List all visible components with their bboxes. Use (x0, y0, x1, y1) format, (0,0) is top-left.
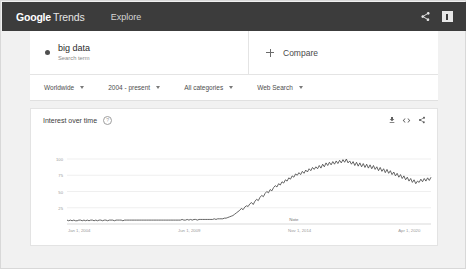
category-filter[interactable]: All categories (184, 84, 233, 91)
google-trends-page: Google Trends Explore big data Search te… (0, 0, 466, 269)
interest-over-time-plot: 255075100NoteJan 1, 2004Jun 1, 2009Nov 1… (31, 131, 439, 247)
location-filter[interactable]: Worldwide (44, 84, 84, 91)
embed-code-icon[interactable] (400, 114, 413, 127)
compare-label: Compare (283, 48, 318, 58)
trends-wordmark: Trends (53, 11, 85, 23)
search-type-filter[interactable]: Web Search (257, 84, 303, 91)
y-axis-tick-label: 100 (56, 157, 64, 162)
x-axis-tick-label: Jan 1, 2004 (68, 228, 91, 233)
chevron-down-icon (299, 86, 303, 89)
google-wordmark: Google (16, 11, 51, 23)
search-term-label: big data (58, 43, 90, 54)
nav-item-explore[interactable]: Explore (111, 12, 142, 22)
time-range-filter[interactable]: 2004 - present (108, 84, 160, 91)
plus-icon (266, 49, 274, 57)
interest-over-time-card: Interest over time ? 255075100NoteJan 1, (30, 108, 438, 246)
chart-title: Interest over time (43, 117, 97, 124)
x-axis-tick-label: Jun 1, 2009 (178, 228, 201, 233)
x-axis-tick-label: Nov 1, 2014 (288, 228, 312, 233)
search-term-text: big data Search term (58, 43, 90, 62)
location-filter-label: Worldwide (44, 84, 74, 91)
chevron-down-icon (156, 86, 160, 89)
feedback-flag-icon[interactable] (438, 8, 456, 26)
x-axis-tick-label: Apr 1, 2020 (398, 228, 421, 233)
search-type-filter-label: Web Search (257, 84, 293, 91)
feedback-flag-glyph (442, 11, 453, 22)
help-circle-icon[interactable]: ? (103, 116, 112, 125)
chart-svg: 255075100NoteJan 1, 2004Jun 1, 2009Nov 1… (31, 131, 439, 247)
search-term-chip[interactable]: big data Search term (30, 31, 249, 74)
chevron-down-icon (229, 86, 233, 89)
chart-note-annotation: Note (289, 217, 299, 222)
time-range-filter-label: 2004 - present (108, 84, 150, 91)
chevron-down-icon (80, 86, 84, 89)
series-color-dot (45, 50, 50, 55)
filter-bar: Worldwide 2004 - present All categories … (30, 75, 438, 101)
y-axis-tick-label: 25 (58, 206, 63, 211)
share-icon[interactable] (416, 8, 434, 26)
download-icon[interactable] (385, 114, 398, 127)
search-term-type: Search term (58, 55, 90, 62)
category-filter-label: All categories (184, 84, 223, 91)
query-compare-row: big data Search term Compare (30, 31, 438, 75)
google-trends-logo[interactable]: Google Trends (16, 11, 85, 23)
y-axis-tick-label: 50 (58, 190, 63, 195)
y-axis-tick-label: 75 (58, 173, 63, 178)
compare-button[interactable]: Compare (249, 31, 438, 74)
data-series-line[interactable] (67, 159, 431, 221)
share-icon[interactable] (415, 114, 428, 127)
chart-card-header: Interest over time ? (31, 109, 437, 131)
app-bar: Google Trends Explore (2, 2, 466, 31)
